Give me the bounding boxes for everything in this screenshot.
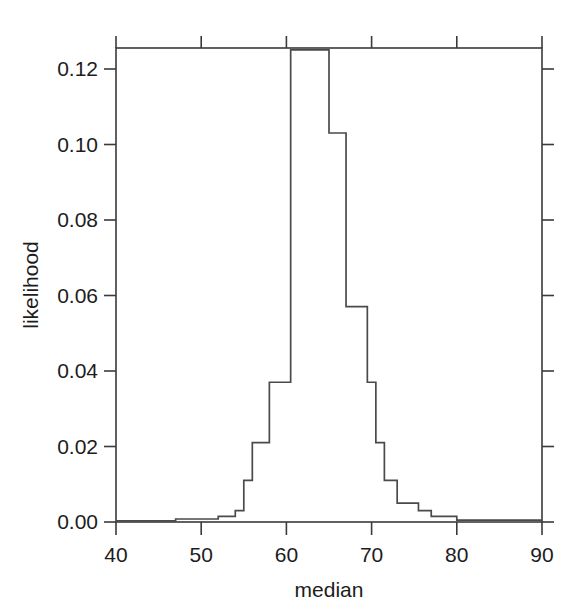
y-axis-title: likelihood [19, 241, 42, 329]
x-tick-label-5: 90 [530, 543, 553, 566]
y-tick-label-5: 0.10 [57, 133, 98, 156]
y-tick-label-3: 0.06 [57, 284, 98, 307]
likelihood-step-line [116, 50, 542, 521]
x-tick-label-1: 50 [190, 543, 213, 566]
figure-container: 0.00 0.02 0.04 0.06 0.08 0.10 0.12 40 50… [0, 0, 573, 615]
x-axis-ticks-top [116, 36, 542, 48]
x-tick-label-3: 70 [360, 543, 383, 566]
x-axis-title: median [295, 578, 364, 601]
y-axis-ticks [104, 69, 116, 522]
chart-plot: 0.00 0.02 0.04 0.06 0.08 0.10 0.12 40 50… [0, 0, 573, 615]
x-tick-label-2: 60 [275, 543, 298, 566]
x-axis-ticks [116, 522, 542, 535]
y-tick-label-0: 0.00 [57, 510, 98, 533]
y-axis-ticks-right [542, 69, 554, 522]
y-tick-label-2: 0.04 [57, 359, 98, 382]
x-tick-label-4: 80 [445, 543, 468, 566]
y-tick-label-6: 0.12 [57, 57, 98, 80]
y-tick-label-1: 0.02 [57, 435, 98, 458]
y-tick-label-4: 0.08 [57, 208, 98, 231]
x-tick-label-0: 40 [104, 543, 127, 566]
